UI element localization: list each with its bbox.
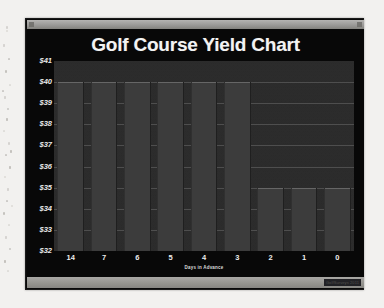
scan-speckle <box>4 260 6 263</box>
x-axis-tick-label: 3 <box>221 253 254 263</box>
scan-speckle <box>5 236 7 239</box>
scan-speckle <box>7 108 9 110</box>
x-axis: 1476543210 <box>54 253 354 265</box>
scan-speckle <box>5 70 7 73</box>
bar[interactable] <box>57 82 84 251</box>
window-titlebar[interactable] <box>27 20 364 29</box>
window-menu-icon[interactable] <box>29 22 34 27</box>
scan-speckle <box>6 26 8 29</box>
y-axis-tick-label: $36 <box>28 163 52 171</box>
scan-speckle <box>3 212 5 215</box>
x-axis-tick-label: 1 <box>287 253 320 263</box>
bar[interactable] <box>91 82 118 251</box>
close-icon[interactable] <box>357 22 362 27</box>
x-axis-tick-label: 4 <box>187 253 220 263</box>
bar[interactable] <box>191 82 218 251</box>
bar[interactable] <box>224 82 251 251</box>
chart-canvas: Golf Course Yield Chart $41$40$39$38$37$… <box>27 29 364 279</box>
scan-speckle <box>10 150 12 153</box>
watermark-label: GolfSurveys 2011 <box>324 279 361 286</box>
chart-title: Golf Course Yield Chart <box>27 34 364 56</box>
y-axis-tick-label: $35 <box>28 184 52 192</box>
scan-speckle <box>2 90 4 92</box>
scan-speckle <box>4 176 6 178</box>
scan-speckle <box>6 118 8 121</box>
scan-speckle <box>11 205 13 207</box>
y-axis-tick-label: $33 <box>28 226 52 234</box>
scan-speckle <box>6 200 8 202</box>
x-axis-tick-label: 5 <box>154 253 187 263</box>
y-axis-tick-label: $32 <box>28 247 52 255</box>
scan-speckle <box>3 44 5 47</box>
scan-speckle <box>7 270 9 272</box>
scan-speckle <box>8 224 10 226</box>
bar[interactable] <box>124 82 151 251</box>
y-axis-tick-label: $39 <box>28 99 52 107</box>
y-axis-tick-label: $41 <box>28 57 52 65</box>
bar[interactable] <box>324 188 351 251</box>
chart-window: Golf Course Yield Chart $41$40$39$38$37$… <box>25 18 364 290</box>
bar[interactable] <box>291 188 318 251</box>
scan-speckle <box>3 130 5 132</box>
x-axis-title: Days in Advance <box>54 265 354 271</box>
window-statusbar: GolfSurveys 2011 <box>27 277 364 288</box>
y-axis: $41$40$39$38$37$36$35$34$33$32 <box>27 61 52 251</box>
scan-speckle <box>4 96 6 99</box>
x-axis-tick-label: 14 <box>54 253 87 263</box>
plot-area <box>54 61 354 251</box>
scan-speckle <box>9 166 11 169</box>
scan-speckle <box>6 30 8 32</box>
x-axis-tick-label: 0 <box>321 253 354 263</box>
y-axis-tick-label: $38 <box>28 120 52 128</box>
x-axis-tick-label: 2 <box>254 253 287 263</box>
scan-speckle <box>9 248 11 250</box>
bar[interactable] <box>157 82 184 251</box>
scan-speckle <box>5 154 7 156</box>
x-axis-tick-label: 6 <box>121 253 154 263</box>
scan-speckle <box>7 188 9 191</box>
y-axis-tick-label: $34 <box>28 205 52 213</box>
scan-speckle <box>9 84 11 86</box>
y-axis-tick-label: $37 <box>28 141 52 149</box>
y-axis-tick-label: $40 <box>28 78 52 86</box>
x-axis-tick-label: 7 <box>87 253 120 263</box>
scan-speckles <box>0 0 24 308</box>
bar[interactable] <box>257 188 284 251</box>
scan-speckle <box>8 142 10 145</box>
scan-speckle <box>8 58 10 60</box>
